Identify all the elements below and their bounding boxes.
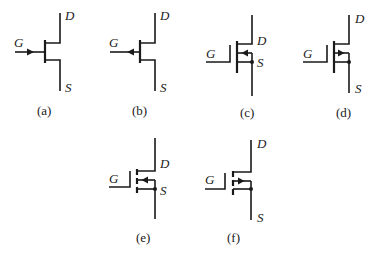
source-label: S bbox=[257, 55, 264, 70]
arrow-in-icon bbox=[142, 177, 149, 184]
fet-symbols-diagram: G D S (a) G D S (b) G D S (c) bbox=[0, 0, 371, 255]
symbol-e-mosfet: G D S (e) bbox=[109, 138, 170, 245]
drain-lead bbox=[334, 15, 349, 44]
caption-b: (b) bbox=[132, 103, 147, 118]
arrow-out-icon bbox=[127, 49, 134, 56]
arrow-in-icon bbox=[27, 49, 34, 56]
drain-lead bbox=[140, 13, 155, 43]
symbol-c-mosfet: G D S (c) bbox=[206, 15, 267, 120]
gate-label: G bbox=[14, 35, 24, 50]
junction-dot bbox=[347, 60, 351, 64]
source-label: S bbox=[160, 80, 167, 95]
drain-label: D bbox=[256, 136, 267, 151]
source-label: S bbox=[160, 183, 167, 198]
junction-dot bbox=[249, 187, 253, 191]
drain-label: D bbox=[354, 11, 365, 26]
gate-label: G bbox=[109, 171, 119, 186]
source-lead bbox=[140, 60, 155, 91]
symbol-b-pjfet: G D S (b) bbox=[109, 8, 170, 118]
symbol-f-mosfet: G D S (f) bbox=[205, 136, 267, 245]
caption-c: (c) bbox=[240, 105, 254, 120]
symbol-a-njfet: G D S (a) bbox=[14, 8, 75, 118]
drain-lead bbox=[45, 13, 60, 43]
source-lead bbox=[45, 60, 60, 91]
drain-lead bbox=[137, 138, 155, 171]
drain-label: D bbox=[159, 156, 170, 171]
drain-label: D bbox=[256, 33, 267, 48]
source-label: S bbox=[65, 80, 72, 95]
caption-f: (f) bbox=[227, 230, 240, 245]
source-label: S bbox=[257, 210, 264, 225]
junction-dot bbox=[153, 187, 157, 191]
junction-dot bbox=[250, 60, 254, 64]
gate-label: G bbox=[303, 46, 313, 61]
gate-label: G bbox=[109, 35, 119, 50]
caption-d: (d) bbox=[336, 105, 351, 120]
drain-label: D bbox=[159, 8, 170, 23]
drain-lead bbox=[233, 140, 251, 172]
symbol-d-mosfet: G D S (d) bbox=[303, 11, 365, 120]
drain-lead bbox=[237, 15, 252, 44]
gate-label: G bbox=[206, 46, 216, 61]
caption-e: (e) bbox=[136, 230, 150, 245]
arrow-out-icon bbox=[338, 50, 345, 57]
drain-label: D bbox=[64, 8, 75, 23]
arrow-in-icon bbox=[242, 50, 249, 57]
arrow-out-icon bbox=[238, 178, 245, 185]
source-label: S bbox=[355, 81, 362, 96]
caption-a: (a) bbox=[37, 103, 51, 118]
gate-label: G bbox=[205, 172, 215, 187]
